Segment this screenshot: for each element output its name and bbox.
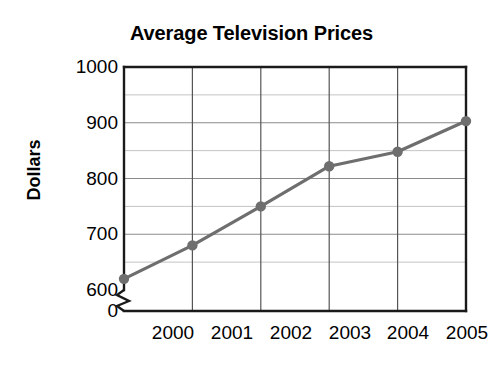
data-point-2001: [187, 240, 197, 250]
data-point-2003: [324, 161, 334, 171]
major-gridlines: [124, 123, 466, 235]
axis-break-symbol: [117, 290, 129, 311]
plot-area: [0, 0, 503, 365]
data-point-2004: [392, 147, 402, 157]
data-point-2002: [256, 201, 266, 211]
series-polyline: [124, 121, 466, 279]
data-point-2005: [461, 116, 471, 126]
vertical-gridlines: [192, 67, 397, 311]
data-series-line: [124, 121, 466, 279]
data-point-2000: [119, 274, 129, 284]
chart-figure: Average Television Prices Dollars 1000 9…: [0, 0, 503, 365]
plot-frame: [124, 67, 466, 311]
